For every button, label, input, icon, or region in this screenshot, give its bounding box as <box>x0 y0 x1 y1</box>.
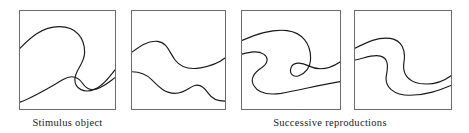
stimulus-panel <box>19 10 116 110</box>
panel-3-drawing <box>242 11 340 109</box>
reproduction-panel-1 <box>131 10 226 110</box>
panel-4-lower-s-curve <box>355 56 451 96</box>
figure-container: Stimulus object Successive reproductions <box>0 0 469 133</box>
panel-2-lower-curve <box>132 72 225 101</box>
stimulus-caption: Stimulus object <box>0 117 135 128</box>
panel-1-drawing <box>20 11 115 109</box>
panel-2-upper-curve <box>132 41 225 68</box>
panel-3-upper-hook-curve <box>242 30 340 76</box>
panel-1-lower-curve <box>20 77 115 102</box>
reproduction-panel-3 <box>354 10 452 110</box>
panel-2-drawing <box>132 11 225 109</box>
panel-4-upper-s-curve <box>355 38 451 84</box>
reproduction-panel-2 <box>241 10 341 110</box>
panel-4-drawing <box>355 11 451 109</box>
reproductions-caption: Successive reproductions <box>205 117 455 128</box>
panel-1-upper-curve <box>20 27 115 91</box>
